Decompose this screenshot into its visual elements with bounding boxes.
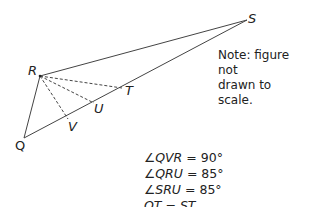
given-angle-SRU: ∠SRU = 85° [144,182,224,198]
given-angle-QVR: ∠QVR = 90° [144,150,224,166]
segment-RQ [24,76,40,138]
label-U: U [94,102,104,115]
segment-RS [40,20,247,76]
point-R-dot [39,75,42,78]
given-angle-QRU: ∠QRU = 85° [144,166,224,182]
label-V: V [68,120,77,133]
given-QT-equals-ST: QT = ST [144,198,224,207]
note-line-1: Note: figure not [218,48,309,78]
note-line-2: drawn to scale. [218,78,309,108]
given-conditions: ∠QVR = 90° ∠QRU = 85° ∠SRU = 85° QT = ST [144,150,224,207]
scale-note: Note: figure not drawn to scale. [218,48,309,108]
label-S: S [248,12,256,25]
label-T: T [125,84,133,97]
label-R: R [28,64,37,77]
segment-RT [40,76,122,88]
label-Q: Q [15,139,25,152]
